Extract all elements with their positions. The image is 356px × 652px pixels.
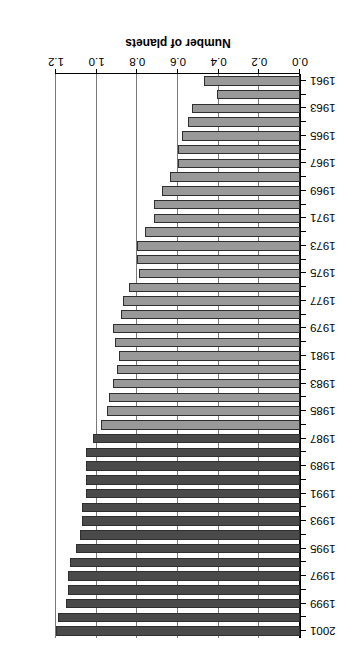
- category-tick-label: 2001: [310, 625, 356, 637]
- bar-1968: [170, 172, 300, 181]
- bar-row: [0, 597, 356, 611]
- category-tick: [301, 341, 306, 342]
- category-tick-label: 1969: [310, 185, 356, 197]
- bar-row: [0, 308, 356, 322]
- bar-1988: [87, 448, 301, 457]
- bar-row: [0, 569, 356, 583]
- bar-row: [0, 143, 356, 157]
- chart-figure: 0.00.20.40.60.81.01.2 196119631965196719…: [0, 0, 356, 652]
- bar-row: [0, 363, 356, 377]
- bar-row: [0, 157, 356, 171]
- category-tick: [301, 328, 306, 329]
- bar-row: [0, 611, 356, 625]
- category-tick-label: 1987: [310, 433, 356, 445]
- category-tick: [301, 107, 306, 108]
- category-tick: [301, 548, 306, 549]
- category-tick: [301, 149, 306, 150]
- bar-1977: [123, 296, 300, 305]
- category-tick: [301, 135, 306, 136]
- bar-row: [0, 170, 356, 184]
- bar-1986: [101, 420, 300, 429]
- category-tick: [301, 506, 306, 507]
- bar-1962: [217, 90, 300, 99]
- category-tick: [301, 603, 306, 604]
- category-tick: [301, 217, 306, 218]
- value-tick-label: 1.0: [77, 55, 117, 68]
- bar-1987: [93, 434, 300, 443]
- bar-row: [0, 74, 356, 88]
- value-axis-line: [56, 73, 300, 74]
- bar-row: [0, 294, 356, 308]
- bar-row: [0, 184, 356, 198]
- category-tick: [301, 80, 306, 81]
- bar-row: [0, 418, 356, 432]
- bar-row: [0, 542, 356, 556]
- rotated-chart-container: 0.00.20.40.60.81.01.2 196119631965196719…: [0, 0, 356, 652]
- value-tick: [96, 69, 97, 74]
- bar-row: [0, 624, 356, 638]
- category-tick: [301, 438, 306, 439]
- category-tick: [301, 176, 306, 177]
- category-tick: [301, 383, 306, 384]
- category-tick: [301, 534, 306, 535]
- bar-row: [0, 129, 356, 143]
- category-tick: [301, 630, 306, 631]
- category-tick: [301, 314, 306, 315]
- bar-row: [0, 404, 356, 418]
- bar-1997: [68, 571, 300, 580]
- bar-row: [0, 349, 356, 363]
- bar-1970: [154, 200, 300, 209]
- category-tick: [301, 424, 306, 425]
- bar-1975: [139, 269, 300, 278]
- bar-row: [0, 432, 356, 446]
- bar-1980: [115, 338, 300, 347]
- bar-1990: [87, 475, 301, 484]
- value-tick: [136, 69, 137, 74]
- category-tick: [301, 245, 306, 246]
- bar-1961: [204, 76, 300, 85]
- category-tick-label: 1963: [310, 102, 356, 114]
- bar-1989: [87, 461, 301, 470]
- category-tick: [301, 616, 306, 617]
- bar-1992: [82, 503, 300, 512]
- bar-row: [0, 115, 356, 129]
- category-tick-label: 1991: [310, 488, 356, 500]
- bar-1978: [121, 310, 300, 319]
- bar-row: [0, 487, 356, 501]
- category-tick: [301, 561, 306, 562]
- bar-row: [0, 377, 356, 391]
- bar-1991: [87, 489, 301, 498]
- category-tick-label: 1993: [310, 515, 356, 527]
- bar-row: [0, 102, 356, 116]
- bar-1966: [178, 145, 300, 154]
- bar-1969: [162, 186, 300, 195]
- bar-1967: [178, 159, 300, 168]
- bar-row: [0, 225, 356, 239]
- category-tick-label: 1977: [310, 295, 356, 307]
- category-tick-label: 1995: [310, 543, 356, 555]
- category-tick: [301, 410, 306, 411]
- value-tick-label: 0.8: [117, 55, 157, 68]
- bar-row: [0, 239, 356, 253]
- bar-row: [0, 459, 356, 473]
- category-tick: [301, 575, 306, 576]
- bar-row: [0, 528, 356, 542]
- bar-row: [0, 212, 356, 226]
- bar-2001: [56, 626, 300, 635]
- category-tick: [301, 465, 306, 466]
- value-tick: [218, 69, 219, 74]
- category-tick: [301, 396, 306, 397]
- value-tick-label: 0.4: [199, 55, 239, 68]
- bar-row: [0, 267, 356, 281]
- category-tick: [301, 300, 306, 301]
- category-tick: [301, 190, 306, 191]
- bar-1999: [66, 599, 300, 608]
- value-tick-label: 0.0: [280, 55, 320, 68]
- category-tick-label: 1961: [310, 75, 356, 87]
- bar-row: [0, 583, 356, 597]
- bar-1994: [80, 530, 300, 539]
- category-tick: [301, 369, 306, 370]
- bar-row: [0, 335, 356, 349]
- bar-row: [0, 473, 356, 487]
- bar-row: [0, 322, 356, 336]
